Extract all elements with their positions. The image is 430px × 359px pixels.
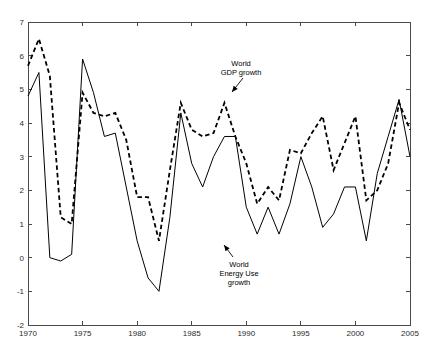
chart-annotations: WorldGDP growthWorldEnergy Usegrowth <box>219 59 261 287</box>
energy-annotation-line: World <box>229 260 248 269</box>
y-tick-label: -1 <box>17 287 25 296</box>
chart-axes: -2-1012345671970197519801985199019952000… <box>17 18 420 338</box>
y-tick-label: 6 <box>20 52 25 61</box>
y-tick-label: 4 <box>20 119 25 128</box>
y-tick-label: 0 <box>20 254 25 263</box>
energy-annotation-arrow-head <box>224 245 230 251</box>
chart-series <box>28 39 410 291</box>
gdp-annotation-arrow-head <box>232 86 238 92</box>
x-tick-label: 1990 <box>237 329 255 338</box>
y-tick-label: 1 <box>20 220 25 229</box>
x-tick-label: 2000 <box>347 329 365 338</box>
gdp-annotation-line: World <box>231 59 250 68</box>
y-tick-label: 5 <box>20 85 25 94</box>
gdp-annotation-line: GDP growth <box>221 68 262 77</box>
series-world-energy-use-growth <box>28 59 410 291</box>
series-world-gdp-growth <box>28 39 410 241</box>
x-tick-label: 2005 <box>401 329 419 338</box>
energy-annotation-line: growth <box>228 278 251 287</box>
energy-annotation-line: Energy Use <box>219 269 258 278</box>
x-tick-label: 1975 <box>74 329 92 338</box>
x-tick-label: 1980 <box>128 329 146 338</box>
x-tick-label: 1995 <box>292 329 310 338</box>
y-tick-label: 3 <box>20 153 25 162</box>
x-tick-label: 1985 <box>183 329 201 338</box>
y-tick-label: 2 <box>20 186 25 195</box>
y-tick-label: 7 <box>20 18 25 27</box>
chart-figure: -2-1012345671970197519801985199019952000… <box>0 0 430 359</box>
x-tick-label: 1970 <box>19 329 37 338</box>
